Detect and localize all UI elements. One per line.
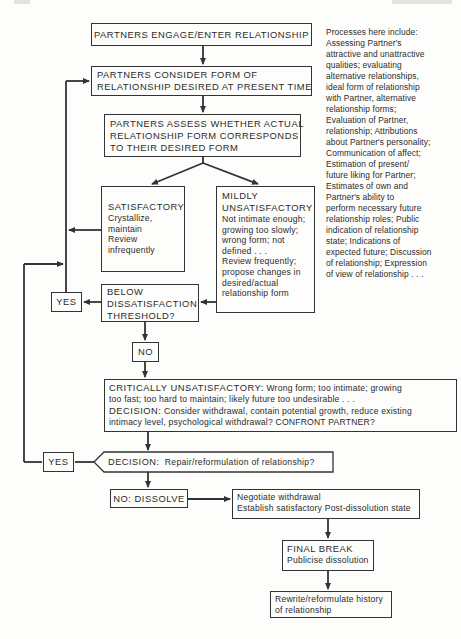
node-mildly-unsatisfactory: MILDLY UNSATISFACTORY Not intimate enoug… (216, 186, 315, 313)
node-rewrite-line-1: Rewrite/reformulate history (275, 594, 387, 605)
side-note-line: relationship; Attributions (326, 126, 461, 137)
node-no-upper-text: NO (138, 346, 153, 358)
node-mildly-title-1: MILDLY (222, 190, 310, 202)
node-repair-decision-label: DECISION: (108, 457, 159, 467)
side-note-line: alternative relationships, (326, 71, 461, 82)
node-negotiate-line-1: Negotiate withdrawal (237, 492, 415, 503)
node-mildly-line-8: relationship form (222, 288, 310, 299)
node-critical-line-1: Wrong form; too intimate; growing (266, 383, 401, 393)
node-critical-line-2: too fast; too hard to maintain; likely f… (109, 394, 452, 405)
node-rewrite: Rewrite/reformulate history of relations… (270, 591, 392, 618)
node-consider: PARTNERS CONSIDER FORM OF RELATIONSHIP D… (91, 66, 312, 96)
page-header-remnant-left (14, 0, 30, 4)
node-engage-text: PARTNERS ENGAGE/ENTER RELATIONSHIP (94, 29, 309, 41)
side-note-line: with Partner, alternative (326, 93, 461, 104)
node-rewrite-line-2: of relationship (275, 605, 387, 616)
node-satisfactory: SATISFACTORY Crystallize, maintain Revie… (101, 186, 185, 272)
node-consider-line-2: RELATIONSHIP DESIRED AT PRESENT TIME (97, 81, 306, 93)
side-note-line: Estimation of present/ (326, 159, 461, 170)
node-engage: PARTNERS ENGAGE/ENTER RELATIONSHIP (91, 23, 312, 46)
side-note-line: Assessing Partner's (326, 38, 461, 49)
side-note-line: relationship roles; Public (326, 214, 461, 225)
node-assess: PARTNERS ASSESS WHETHER ACTUAL RELATIONS… (104, 114, 301, 157)
node-no-upper: NO (132, 342, 159, 362)
node-yes-lower-text: YES (48, 456, 68, 468)
node-yes-upper-text: YES (56, 296, 76, 308)
side-note-line: Communication of affect; (326, 148, 461, 159)
node-threshold-line-3: THRESHOLD? (107, 310, 193, 322)
node-critical-line-4: intimacy level, psychological withdrawal… (109, 417, 452, 428)
processes-side-note: Processes here include: Assessing Partne… (326, 27, 461, 280)
node-mildly-line-6: propose changes in (222, 267, 310, 278)
side-note-line: qualities; evaluating (326, 60, 461, 71)
node-repair-decision-text: Repair/reformulation of relationship? (165, 457, 315, 467)
node-critically-unsatisfactory: CRITICALLY UNSATISFACTORY: Wrong form; t… (104, 379, 457, 432)
side-note-line: expected future; Discussion (326, 247, 461, 258)
node-final-break: FINAL BREAK Publicise dissolution (282, 540, 374, 571)
node-final-break-title: FINAL BREAK (287, 543, 369, 555)
side-note-line: state; Indications of (326, 236, 461, 247)
page-header-remnant-right (392, 0, 452, 4)
node-satisfactory-line-1: Crystallize, (108, 213, 179, 224)
side-note-line: of view of relationship . . . (326, 269, 461, 280)
node-mildly-line-2: growing too slowly; (222, 225, 310, 236)
side-note-line: of relationship; Expression (326, 258, 461, 269)
node-assess-line-1: PARTNERS ASSESS WHETHER ACTUAL (110, 118, 295, 130)
side-note-line: perform necessary future (326, 203, 461, 214)
node-repair-decision: DECISION: Repair/reformulation of relati… (108, 452, 315, 472)
node-critical-line-3: Consider withdrawal, contain potential g… (164, 406, 412, 416)
side-note-line: indication of relationship (326, 225, 461, 236)
node-satisfactory-line-3: Review (108, 234, 179, 245)
node-mildly-line-3: wrong form; not (222, 235, 310, 246)
node-critical-decision-label: DECISION: (109, 405, 161, 416)
node-threshold-line-1: BELOW (107, 286, 193, 298)
side-note-line: attractive and unattractive (326, 49, 461, 60)
node-satisfactory-title: SATISFACTORY (108, 201, 179, 213)
side-note-line: about Partner's personality; (326, 137, 461, 148)
node-dissolve-text: NO: DISSOLVE (113, 493, 184, 505)
node-assess-line-2: RELATIONSHIP FORM CORRESPONDS (110, 130, 295, 142)
node-mildly-line-7: desired/actual (222, 278, 310, 289)
node-negotiate-line-2: Establish satisfactory Post-dissolution … (237, 503, 415, 514)
node-threshold-line-2: DISSATISFACTION (107, 298, 193, 310)
node-yes-upper: YES (51, 292, 82, 312)
node-negotiate: Negotiate withdrawal Establish satisfact… (232, 489, 420, 519)
node-critical-title: CRITICALLY UNSATISFACTORY: (109, 382, 264, 393)
node-mildly-line-5: Review frequently; (222, 256, 310, 267)
side-note-line: ideal form of relationship (326, 82, 461, 93)
side-note-line: Partner's ability to (326, 192, 461, 203)
side-note-line: Evaluation of Partner, (326, 115, 461, 126)
side-note-line: Estimates of own and (326, 181, 461, 192)
node-satisfactory-line-4: infrequently (108, 245, 179, 256)
node-assess-line-3: TO THEIR DESIRED FORM (110, 142, 295, 154)
node-yes-lower: YES (43, 452, 74, 472)
node-dissolve: NO: DISSOLVE (110, 489, 188, 508)
node-satisfactory-line-2: maintain (108, 224, 179, 235)
node-consider-line-1: PARTNERS CONSIDER FORM OF (97, 69, 306, 81)
node-mildly-line-4: defined . . . (222, 246, 310, 257)
node-mildly-line-1: Not intimate enough; (222, 214, 310, 225)
side-note-line: relationship forms; (326, 104, 461, 115)
node-mildly-title-2: UNSATISFACTORY (222, 202, 310, 214)
node-threshold: BELOW DISSATISFACTION THRESHOLD? (101, 284, 199, 322)
node-final-break-line-1: Publicise dissolution (287, 555, 369, 566)
side-note-line: Processes here include: (326, 27, 461, 38)
side-note-line: future liking for Partner; (326, 170, 461, 181)
